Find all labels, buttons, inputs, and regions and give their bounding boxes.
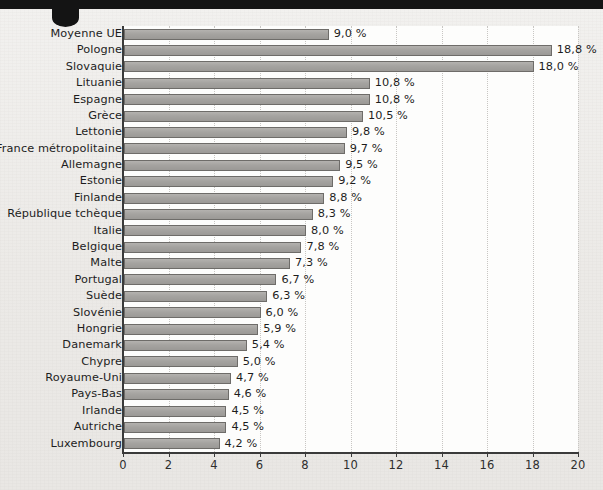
value-label: 6,0 % [266,305,299,321]
bar [124,94,370,105]
bar-row: Pays-Bas4,6 % [0,386,603,402]
value-label: 8,3 % [318,206,351,222]
bar [124,29,329,40]
chart-page: 02468101214161820 Moyenne UE9,0 %Pologne… [0,0,603,490]
bar-row: France métropolitaine9,7 % [0,141,603,157]
category-label: Slovénie [0,305,122,321]
x-tick-mark-6 [260,452,261,457]
bar [124,307,261,318]
category-label: Pays-Bas [0,386,122,402]
category-label: République tchèque [0,206,122,222]
x-tick-mark-12 [396,452,397,457]
bar [124,242,301,253]
value-label: 5,4 % [252,337,285,353]
category-label: Malte [0,255,122,271]
category-label: Luxembourg [0,436,122,452]
bar-row: Belgique7,8 % [0,239,603,255]
bar [124,438,220,449]
value-label: 9,0 % [334,26,367,42]
x-tick-mark-20 [578,452,579,457]
bar-row: Portugal6,7 % [0,272,603,288]
x-tick-label-10: 10 [343,458,358,472]
value-label: 7,3 % [295,255,328,271]
bar [124,291,267,302]
category-label: Moyenne UE [0,26,122,42]
category-label: Espagne [0,92,122,108]
x-tick-mark-0 [123,452,124,457]
bar-row: Slovaquie18,0 % [0,59,603,75]
category-label: Finlande [0,190,122,206]
bar [124,111,363,122]
bar [124,422,226,433]
category-label: Grèce [0,108,122,124]
x-tick-label-2: 2 [165,458,173,472]
bar-row: Luxembourg4,2 % [0,436,603,452]
x-tick-mark-2 [169,452,170,457]
category-label: Lettonie [0,124,122,140]
bar-row: Lituanie10,8 % [0,75,603,91]
x-tick-label-18: 18 [525,458,540,472]
bar-row: Suède6,3 % [0,288,603,304]
value-label: 6,7 % [281,272,314,288]
category-label: Irlande [0,403,122,419]
value-label: 18,8 % [557,42,597,58]
bar [124,324,258,335]
value-label: 4,2 % [225,436,258,452]
bar [124,193,324,204]
bar [124,61,534,72]
value-label: 9,5 % [345,157,378,173]
bar-row: Moyenne UE9,0 % [0,26,603,42]
value-label: 4,6 % [234,386,267,402]
category-label: Royaume-Uni [0,370,122,386]
category-label: Slovaquie [0,59,122,75]
bar [124,78,370,89]
value-label: 4,5 % [231,403,264,419]
bar-row: Italie8,0 % [0,223,603,239]
bar [124,209,313,220]
value-label: 9,8 % [352,124,385,140]
bar-row: Royaume-Uni4,7 % [0,370,603,386]
category-label: Allemagne [0,157,122,173]
category-label: Italie [0,223,122,239]
x-tick-label-8: 8 [301,458,309,472]
category-label: Pologne [0,42,122,58]
bar-row: Lettonie9,8 % [0,124,603,140]
bar [124,340,247,351]
x-tick-label-16: 16 [479,458,494,472]
x-tick-mark-4 [214,452,215,457]
bar-row: Chypre5,0 % [0,354,603,370]
top-black-band [0,0,603,9]
bar-row: Irlande4,5 % [0,403,603,419]
bar [124,127,347,138]
bar [124,176,333,187]
x-tick-mark-16 [487,452,488,457]
value-label: 7,8 % [306,239,339,255]
bar [124,356,238,367]
value-label: 4,5 % [231,419,264,435]
bar-row: Malte7,3 % [0,255,603,271]
bar [124,389,229,400]
bar [124,373,231,384]
page-tab-notch [52,7,79,27]
bar-row: Grèce10,5 % [0,108,603,124]
value-label: 4,7 % [236,370,269,386]
x-tick-label-14: 14 [434,458,449,472]
x-tick-mark-10 [351,452,352,457]
bar-row: Allemagne9,5 % [0,157,603,173]
value-label: 8,0 % [311,223,344,239]
bar-row: Espagne10,8 % [0,92,603,108]
bar-row: Estonie9,2 % [0,173,603,189]
bar-row: Danemark5,4 % [0,337,603,353]
value-label: 10,5 % [368,108,408,124]
bar-row: Pologne18,8 % [0,42,603,58]
x-tick-label-4: 4 [210,458,218,472]
bar [124,160,340,171]
bar [124,258,290,269]
bar-row: Slovénie6,0 % [0,305,603,321]
x-tick-label-20: 20 [570,458,585,472]
x-tick-mark-18 [533,452,534,457]
bar [124,225,306,236]
x-tick-mark-14 [442,452,443,457]
category-label: Estonie [0,173,122,189]
value-label: 8,8 % [329,190,362,206]
